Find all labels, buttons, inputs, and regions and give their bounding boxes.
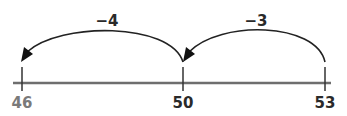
tick-label-50: 50 [173,94,194,112]
tick-label-46: 46 [12,94,33,112]
jump-arc-minus-4 [27,31,183,62]
arrowhead-icon [183,47,195,62]
tick-label-53: 53 [315,94,336,112]
jump-arc-minus-3 [189,30,325,62]
jump-label-minus-4: −4 [95,12,118,30]
jump-label-minus-3: −3 [244,12,267,30]
